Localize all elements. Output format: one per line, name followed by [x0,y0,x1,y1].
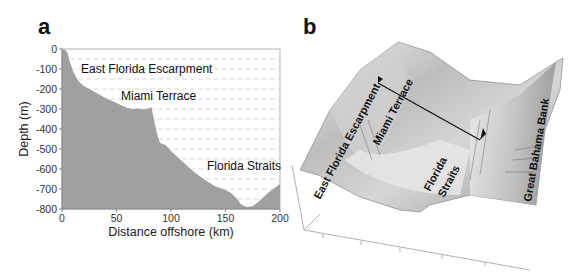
y-tick-label: -700 [36,183,57,195]
y-tick-label: -500 [36,143,57,155]
annotation-florida-straits: Florida Straits [207,159,281,173]
figure-canvas: 0-100-200-300-400-500-600-700-800 050100… [0,0,587,276]
x-tick-label: 150 [217,212,235,224]
annotation-miami-terrace: Miami Terrace [121,89,196,103]
y-tick-label: -300 [36,103,57,115]
x-axis-ticks: 050100150200 [59,209,289,224]
3d-axis-frame-inner [304,214,320,230]
x-axis-title: Distance offshore (km) [108,225,234,239]
annotation-east-florida-escarpment: East Florida Escarpment [81,62,213,76]
y-tick-label: -600 [36,163,57,175]
y-tick-label: -200 [36,83,57,95]
y-tick-label: -800 [36,203,57,215]
y-axis-ticks: 0-100-200-300-400-500-600-700-800 [36,43,62,215]
x-tick-label: 0 [59,212,65,224]
x-tick-label: 50 [111,212,123,224]
y-axis-title: Depth (m) [17,101,31,157]
y-tick-label: 0 [51,43,57,55]
bathymetry-3d-view: East Florida Escarpment Miami Terrace Fl… [292,42,563,270]
depth-profile-chart: 0-100-200-300-400-500-600-700-800 050100… [17,43,289,239]
y-tick-label: -100 [36,63,57,75]
x-tick-label: 200 [271,212,289,224]
y-tick-label: -400 [36,123,57,135]
3d-axis-ticks [323,234,485,266]
x-tick-label: 100 [162,212,180,224]
